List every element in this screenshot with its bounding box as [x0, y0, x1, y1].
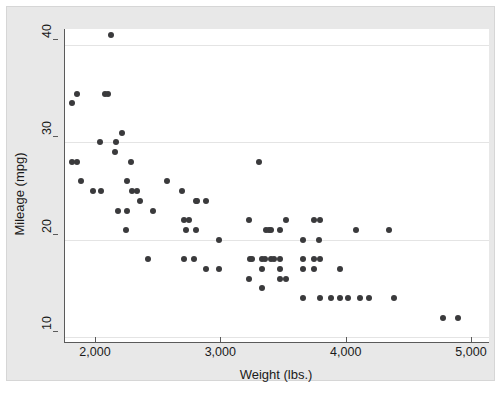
- data-point: [300, 237, 306, 243]
- data-point: [124, 208, 130, 214]
- data-point: [115, 208, 121, 214]
- data-point: [105, 91, 111, 97]
- y-tick-20: [53, 234, 58, 235]
- data-point: [277, 266, 283, 272]
- data-point: [193, 227, 199, 233]
- data-point: [317, 295, 323, 301]
- data-point: [268, 227, 274, 233]
- data-point: [353, 227, 359, 233]
- data-point: [256, 159, 262, 165]
- data-point: [108, 32, 114, 38]
- data-point: [440, 315, 446, 321]
- x-tick-5000: [471, 337, 472, 342]
- data-point: [179, 188, 185, 194]
- data-point: [300, 266, 306, 272]
- data-point: [337, 266, 343, 272]
- data-point: [277, 227, 283, 233]
- data-point: [119, 130, 125, 136]
- data-point: [246, 217, 252, 223]
- data-point: [74, 91, 80, 97]
- x-tick-label: 3,000: [205, 345, 236, 359]
- data-point: [277, 256, 283, 262]
- x-tick-2000: [95, 337, 96, 342]
- x-tick-label: 4,000: [330, 345, 361, 359]
- data-point: [137, 198, 143, 204]
- data-point: [186, 217, 192, 223]
- data-point: [124, 178, 130, 184]
- data-point: [97, 139, 103, 145]
- data-point: [283, 276, 289, 282]
- data-point: [113, 139, 119, 145]
- gridline-y-30: [65, 142, 489, 143]
- y-axis-title: Mileage (mpg): [12, 152, 27, 235]
- data-point: [134, 188, 140, 194]
- data-point: [78, 178, 84, 184]
- data-point: [277, 276, 283, 282]
- data-point: [203, 198, 209, 204]
- data-point: [194, 198, 200, 204]
- data-point: [455, 315, 461, 321]
- gridline-y-40: [65, 45, 489, 46]
- data-point: [316, 237, 322, 243]
- y-tick-40: [53, 39, 58, 40]
- data-point: [317, 256, 323, 262]
- data-point: [216, 237, 222, 243]
- data-point: [98, 188, 104, 194]
- data-point: [262, 256, 268, 262]
- data-point: [311, 266, 317, 272]
- data-point: [216, 266, 222, 272]
- data-point: [74, 159, 80, 165]
- gridline-y-10: [65, 337, 489, 338]
- data-point: [300, 256, 306, 262]
- data-point: [300, 295, 306, 301]
- data-point: [203, 266, 209, 272]
- gridline-y-20: [65, 240, 489, 241]
- x-tick-label: 5,000: [455, 345, 486, 359]
- x-tick-label: 2,000: [79, 345, 110, 359]
- data-point: [181, 256, 187, 262]
- graph-region: Mileage (mpg) Weight (lbs.) 10203040 2,0…: [6, 6, 495, 381]
- data-point: [246, 276, 252, 282]
- data-point: [183, 227, 189, 233]
- figure: Mileage (mpg) Weight (lbs.) 10203040 2,0…: [0, 0, 501, 399]
- x-tick-3000: [220, 337, 221, 342]
- data-point: [249, 256, 255, 262]
- data-point: [391, 295, 397, 301]
- data-point: [366, 295, 372, 301]
- data-point: [259, 285, 265, 291]
- data-point: [259, 266, 265, 272]
- data-point: [311, 217, 317, 223]
- y-tick-30: [53, 136, 58, 137]
- data-point: [150, 208, 156, 214]
- data-point: [345, 295, 351, 301]
- data-point: [90, 188, 96, 194]
- data-point: [328, 295, 334, 301]
- y-tick-10: [53, 331, 58, 332]
- data-point: [191, 256, 197, 262]
- data-point: [337, 295, 343, 301]
- data-point: [386, 227, 392, 233]
- data-point: [145, 256, 151, 262]
- data-point: [164, 178, 170, 184]
- data-point: [317, 217, 323, 223]
- data-point: [69, 100, 75, 106]
- plot-region: [64, 29, 489, 343]
- data-point: [357, 295, 363, 301]
- data-point: [112, 149, 118, 155]
- data-point: [283, 217, 289, 223]
- x-axis-title: Weight (lbs.): [240, 367, 313, 382]
- data-point: [271, 256, 277, 262]
- data-point: [311, 256, 317, 262]
- data-point: [128, 159, 134, 165]
- data-point: [123, 227, 129, 233]
- x-tick-4000: [346, 337, 347, 342]
